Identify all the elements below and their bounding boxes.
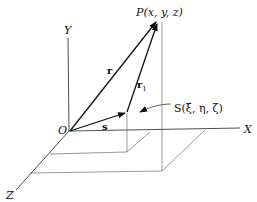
z-axis	[16, 131, 69, 190]
point-s-label: S(ξ, η, ζ)	[174, 102, 223, 115]
vector-r1-label: r1	[137, 79, 147, 93]
s-pointer-arrow	[140, 104, 171, 112]
vector-diagram: Y X Z O P(x, y, z) S(ξ, η, ζ) r r1 s	[0, 0, 257, 202]
z-axis-label: Z	[5, 189, 14, 202]
vector-s-label: s	[102, 121, 108, 132]
p-projection-box	[30, 130, 205, 173]
vector-r	[70, 22, 156, 131]
x-axis-label: X	[243, 123, 253, 136]
vector-r-label: r	[107, 65, 113, 76]
x-axis	[69, 128, 240, 131]
vector-s	[70, 113, 125, 131]
vector-r1	[127, 24, 157, 112]
y-axis-label: Y	[64, 24, 73, 37]
y-axis	[68, 38, 69, 131]
origin-label: O	[58, 124, 67, 137]
point-p-label: P(x, y, z)	[135, 6, 183, 19]
vector-r1-subscript: 1	[142, 85, 146, 93]
